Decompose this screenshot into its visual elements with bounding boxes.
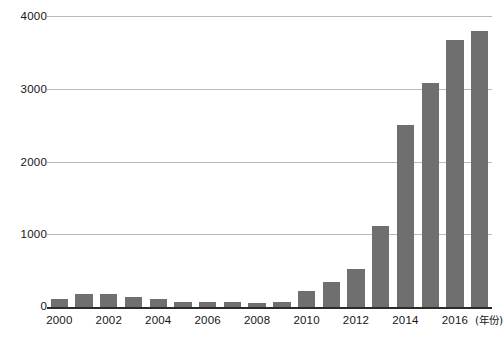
x-tick-label-2012: 2012 [338, 314, 374, 327]
x-axis-labels: (年份) 20002002200420062008201020122014201… [47, 311, 502, 337]
bar [397, 125, 414, 307]
bar [150, 299, 167, 307]
x-tick-label-2016: 2016 [437, 314, 473, 327]
y-tick-label-4000: 4000 [3, 11, 47, 23]
x-tick-label-2004: 2004 [140, 314, 176, 327]
x-tick-label-2014: 2014 [387, 314, 423, 327]
x-axis-line [47, 307, 492, 309]
bar [446, 40, 463, 307]
bar [75, 294, 92, 307]
bar [125, 297, 142, 307]
bar [347, 269, 364, 307]
y-tick-label-2000: 2000 [3, 157, 47, 169]
x-tick-label-2008: 2008 [239, 314, 275, 327]
bar [471, 31, 488, 307]
y-tick-label-0: 0 [3, 301, 47, 313]
x-axis-unit-label: (年份) [475, 314, 503, 327]
x-tick-label-2010: 2010 [289, 314, 325, 327]
bar [100, 294, 117, 307]
bars-layer [47, 16, 492, 307]
bar [51, 299, 68, 307]
bar [323, 282, 340, 307]
x-tick-label-2006: 2006 [190, 314, 226, 327]
bar [298, 291, 315, 307]
x-tick-label-2000: 2000 [41, 314, 77, 327]
y-axis: 4000 3000 2000 1000 0 [0, 0, 47, 339]
bar [372, 226, 389, 307]
y-tick-label-1000: 1000 [3, 229, 47, 241]
x-tick-label-2002: 2002 [91, 314, 127, 327]
bar [422, 83, 439, 307]
y-tick-label-3000: 3000 [3, 84, 47, 96]
